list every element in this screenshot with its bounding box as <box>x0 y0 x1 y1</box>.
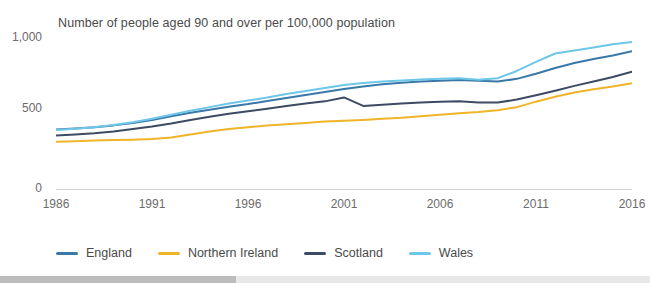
series-line-wales <box>56 42 632 130</box>
series-line-scotland <box>56 72 632 136</box>
y-tick-label: 500 <box>0 101 42 115</box>
x-tick-label: 1991 <box>127 197 177 211</box>
legend-swatch-icon <box>158 252 180 255</box>
x-axis-line <box>56 189 632 190</box>
x-tick-label: 2011 <box>511 197 561 211</box>
plot-area <box>56 36 632 188</box>
legend-item-wales[interactable]: Wales <box>409 246 473 260</box>
series-line-england <box>56 51 632 129</box>
y-tick-label: 1,000 <box>0 30 42 44</box>
legend-label: England <box>86 246 132 260</box>
chart-container: Number of people aged 90 and over per 10… <box>0 0 650 283</box>
chart-legend: England Northern Ireland Scotland Wales <box>56 246 473 260</box>
legend-label: Northern Ireland <box>188 246 278 260</box>
legend-item-england[interactable]: England <box>56 246 132 260</box>
series-lines <box>56 36 632 188</box>
legend-swatch-icon <box>409 252 431 255</box>
x-tick-label: 1996 <box>223 197 273 211</box>
legend-swatch-icon <box>304 252 326 255</box>
legend-swatch-icon <box>56 252 78 255</box>
legend-label: Wales <box>439 246 473 260</box>
series-line-northern-ireland <box>56 83 632 142</box>
chart-title: Number of people aged 90 and over per 10… <box>58 16 395 30</box>
legend-label: Scotland <box>334 246 383 260</box>
x-tick-label: 2006 <box>415 197 465 211</box>
scrollbar-track[interactable] <box>0 276 650 283</box>
x-tick-label: 2001 <box>319 197 369 211</box>
x-tick-label: 1986 <box>31 197 81 211</box>
scrollbar-thumb[interactable] <box>0 276 236 283</box>
y-tick-label: 0 <box>0 181 42 195</box>
x-tick-label: 2016 <box>607 197 650 211</box>
legend-item-northern-ireland[interactable]: Northern Ireland <box>158 246 278 260</box>
legend-item-scotland[interactable]: Scotland <box>304 246 383 260</box>
